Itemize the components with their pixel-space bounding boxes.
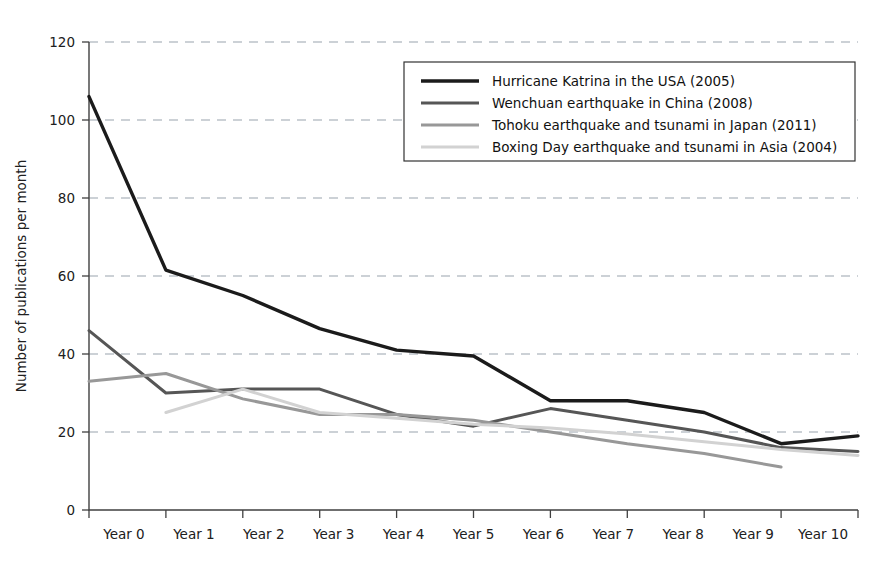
chart-legend: Hurricane Katrina in the USA (2005)Wench…: [404, 62, 855, 161]
x-tick-label-4: Year 4: [382, 526, 424, 542]
y-axis-tick-labels: 020406080100120: [49, 34, 75, 518]
y-tick-label-60: 60: [58, 268, 75, 284]
x-tick-label-8: Year 8: [661, 526, 703, 542]
x-tick-label-2: Year 2: [242, 526, 284, 542]
chart-container: 020406080100120 Year 0Year 1Year 2Year 3…: [0, 0, 888, 567]
line-chart: 020406080100120 Year 0Year 1Year 2Year 3…: [0, 0, 888, 567]
x-tick-label-9: Year 9: [731, 526, 773, 542]
x-tick-label-0: Year 0: [102, 526, 144, 542]
x-tick-label-3: Year 3: [312, 526, 354, 542]
y-axis-title: Number of publications per month: [13, 160, 29, 392]
legend-label-2: Tohoku earthquake and tsunami in Japan (…: [491, 117, 817, 133]
x-tick-label-7: Year 7: [592, 526, 634, 542]
y-tick-label-40: 40: [58, 346, 75, 362]
series-line-1: [89, 331, 858, 452]
y-tick-label-20: 20: [58, 424, 75, 440]
x-tick-label-5: Year 5: [452, 526, 494, 542]
x-tick-label-6: Year 6: [522, 526, 564, 542]
y-tick-label-100: 100: [49, 112, 75, 128]
legend-label-0: Hurricane Katrina in the USA (2005): [492, 73, 735, 89]
x-tick-label-10: Year 10: [797, 526, 848, 542]
x-axis-tick-labels: Year 0Year 1Year 2Year 3Year 4Year 5Year…: [102, 526, 848, 542]
series-line-3: [166, 389, 858, 455]
y-tick-label-120: 120: [49, 34, 75, 50]
y-tick-label-0: 0: [66, 502, 75, 518]
y-axis-title-text: Number of publications per month: [13, 160, 29, 392]
x-tick-label-1: Year 1: [172, 526, 214, 542]
legend-label-3: Boxing Day earthquake and tsunami in Asi…: [492, 139, 837, 155]
y-tick-label-80: 80: [58, 190, 75, 206]
legend-label-1: Wenchuan earthquake in China (2008): [492, 95, 753, 111]
